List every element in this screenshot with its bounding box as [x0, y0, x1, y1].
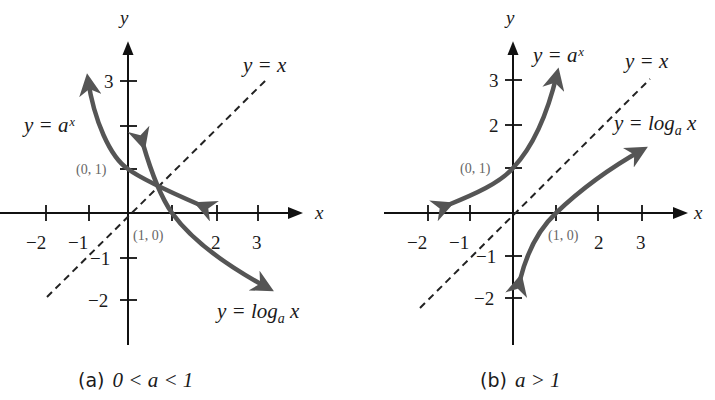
x-axis-label: x: [314, 202, 324, 223]
x-tick-label: −2: [407, 232, 427, 253]
exp-curve: [448, 74, 557, 205]
point-label-1-0: (1, 0): [548, 228, 579, 244]
y-tick-label: 3: [489, 70, 499, 91]
y-tick-label: −2: [474, 288, 494, 309]
caption-a: (a)0 < a < 1: [78, 368, 193, 392]
x-axis-label: x: [693, 202, 703, 223]
log-label: y = loga x: [612, 111, 697, 138]
exp-label: y = aˣ: [22, 113, 75, 137]
log-curve: [520, 150, 642, 280]
point-label-0-1: (0, 1): [76, 162, 107, 178]
panel-b: x y −2 −1 2 3 3 2 −1 −2 y = x y: [384, 7, 703, 392]
x-tick-label: 3: [252, 232, 262, 253]
x-tick-label: 3: [636, 232, 646, 253]
exp-label: y = aˣ: [531, 43, 584, 67]
caption-b: (b)a > 1: [480, 368, 561, 392]
point-label-0-1: (0, 1): [460, 161, 491, 177]
x-tick-label: 2: [594, 232, 604, 253]
x-tick-label: −1: [449, 232, 469, 253]
x-tick-label: −2: [26, 232, 46, 253]
figure: x y −2 −1 2 3 3 −1 −2 y = x y = aˣ: [0, 0, 715, 400]
identity-label: y = x: [241, 53, 287, 77]
panel-a: x y −2 −1 2 3 3 −1 −2 y = x y = aˣ: [0, 7, 324, 392]
y-tick-label: 2: [489, 115, 499, 136]
x-tick-label: −1: [68, 232, 88, 253]
log-curve: [143, 144, 268, 288]
x-tick-label: 2: [211, 232, 221, 253]
identity-label: y = x: [623, 49, 669, 73]
y-axis-label: y: [118, 7, 129, 28]
y-axis-label: y: [504, 7, 515, 28]
y-tick-label: −1: [476, 246, 496, 267]
y-tick-label: −2: [88, 290, 108, 311]
log-label: y = loga x: [215, 299, 300, 326]
point-label-1-0: (1, 0): [133, 228, 164, 244]
y-tick-label: 3: [104, 71, 114, 92]
